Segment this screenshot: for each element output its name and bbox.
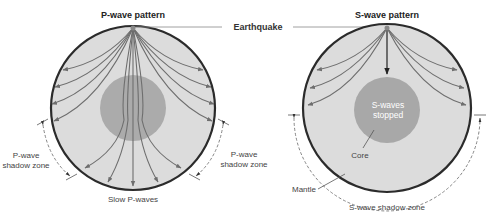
s-wave-panel: S-wave pattern S-waves stopped Core Mant… [288,10,486,212]
earthquake-focus-left [131,26,136,31]
earthquake-label: Earthquake [233,22,282,32]
mantle-callout-line [318,174,345,189]
s-waves-stopped-line1: S-waves [372,100,405,110]
earthquake-focus-right [385,26,390,31]
p-shadow-zone-left-label-line2: shadow zone [2,161,50,170]
earthquake-wave-diagram: P-wave pattern P-wave shadow zone P-wave… [0,0,496,221]
p-wave-title: P-wave pattern [101,10,165,20]
p-shadow-zone-left-label-line1: P-wave [13,151,40,160]
core-label: Core [351,151,369,160]
p-wave-panel: P-wave pattern P-wave shadow zone P-wave… [2,10,268,204]
p-shadow-zone-right-label-line1: P-wave [231,150,258,159]
s-wave-shadow-zone-label: S-wave shadow zone [349,203,426,212]
mantle-label: Mantle [292,185,317,194]
s-waves-stopped-line2: stopped [373,110,404,120]
s-wave-title: S-wave pattern [355,10,419,20]
p-shadow-zone-right-label-line2: shadow zone [220,160,268,169]
slow-p-waves-label: Slow P-waves [108,195,158,204]
earthquake-callout: Earthquake [135,22,385,32]
